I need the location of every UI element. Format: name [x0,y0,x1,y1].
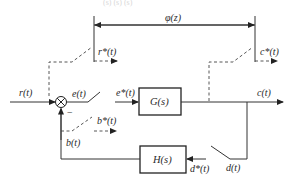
label-e-star: e*(t) [116,87,136,99]
minus-sign: − [67,107,73,118]
label-c: c(t) [257,87,272,99]
label-r: r(t) [19,87,33,99]
feedback-switch [211,102,247,159]
label-e: e(t) [72,88,87,100]
label-d: d(t) [226,162,241,174]
label-c-star: c*(t) [260,46,280,58]
label-d-star: d*(t) [190,163,210,175]
summing-junction [56,97,67,108]
label-G: G(s) [150,96,169,108]
phi-z-label: φ(z) [165,12,182,24]
phi-z-span: φ(z) [94,12,255,62]
block-diagram: (s) (s) (s) φ(z) r*(t) c*(t) r(t) − e(t)… [0,0,292,189]
label-H: H(s) [152,154,172,166]
label-b-star: b*(t) [97,115,117,127]
top-caption-fragment: (s) (s) (s) [103,0,133,7]
label-r-star: r*(t) [98,46,117,58]
label-b: b(t) [66,137,81,149]
